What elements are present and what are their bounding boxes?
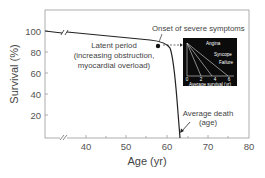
y-tick: 40 (30, 89, 41, 100)
y-tick: 100 (25, 26, 41, 37)
onset-label: Onset of severe symptoms (152, 24, 245, 33)
y-tick: 80 (30, 47, 41, 58)
x-axis-break-icon (60, 135, 67, 141)
death-arrow-icon (182, 122, 190, 131)
x-tick: 40 (81, 141, 92, 152)
survival-chart: 100 80 60 40 20 40 50 60 70 80 Age (yr) … (0, 0, 265, 178)
onset-marker (156, 44, 160, 48)
curve-break-icon (61, 30, 68, 35)
x-tick: 70 (203, 141, 214, 152)
inset-x-label: Average survival (yr) (189, 82, 232, 87)
y-axis-label: Survival (%) (8, 44, 20, 103)
arrowhead-icon (180, 43, 183, 46)
x-tick: 80 (244, 141, 255, 152)
inset-label-failure: Failure (219, 60, 233, 65)
x-axis-label: Age (yr) (127, 155, 166, 167)
x-tick: 50 (121, 141, 132, 152)
latent-label-3: myocardial overload) (78, 61, 151, 70)
death-label-2: (age) (199, 118, 218, 127)
x-tick: 60 (162, 141, 173, 152)
inset-label-syncope: Syncope (214, 52, 232, 57)
latent-label-1: Latent period (91, 41, 137, 50)
onset-arrow-icon (159, 34, 162, 42)
y-tick: 20 (30, 110, 41, 121)
y-tick: 60 (30, 68, 41, 79)
inset-label-angina: Angina (206, 41, 221, 46)
death-label-1: Average death (183, 109, 234, 118)
x-axis (86, 135, 228, 138)
latent-label-2: (increasing obstruction, (74, 51, 155, 60)
y-axis (45, 31, 48, 115)
inset-chart: Angina Syncope Failure 0 2 4 6 Average s… (183, 38, 237, 87)
